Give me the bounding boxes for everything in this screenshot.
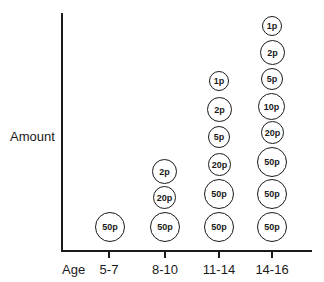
coin-50p: 50p: [204, 179, 234, 209]
tick: [164, 252, 166, 258]
coin-50p: 50p: [204, 212, 234, 242]
coin-20p: 20p: [208, 153, 231, 176]
coin-20p: 20p: [261, 121, 284, 144]
y-axis-label: Amount: [10, 129, 55, 144]
tick: [271, 252, 273, 258]
tick: [218, 252, 220, 258]
x-category-label: 11-14: [194, 262, 244, 277]
x-axis-title: Age: [62, 262, 85, 277]
coin-5p: 5p: [208, 126, 230, 148]
x-category-label: 8-10: [140, 262, 190, 277]
coin-50p: 50p: [95, 212, 125, 242]
x-axis-line: [61, 250, 312, 252]
y-axis-line: [61, 13, 63, 252]
x-category-label: 5-7: [84, 262, 134, 277]
coin-2p: 2p: [207, 97, 232, 122]
coin-50p: 50p: [257, 212, 287, 242]
coin-2p: 2p: [260, 40, 285, 65]
coin-2p: 2p: [152, 159, 177, 184]
coin-50p: 50p: [257, 179, 287, 209]
coin-1p: 1p: [209, 71, 229, 91]
coin-20p: 20p: [153, 186, 176, 209]
coin-5p: 5p: [261, 68, 283, 90]
x-category-label: 14-16: [247, 262, 297, 277]
coin-50p: 50p: [150, 212, 180, 242]
coin-1p: 1p: [262, 16, 282, 36]
tick: [108, 252, 110, 258]
coin-10p: 10p: [258, 93, 285, 120]
coin-50p: 50p: [257, 147, 287, 177]
